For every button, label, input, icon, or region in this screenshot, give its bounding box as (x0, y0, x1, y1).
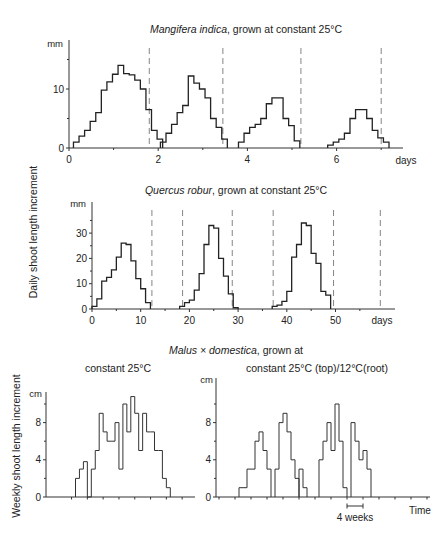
step-series-segment (92, 243, 150, 309)
step-series-segment (319, 404, 347, 497)
malus-group-title: Malus × domestica, grown at (169, 344, 303, 356)
quercus-chart: Quercus robur, grown at constant 25°C mm… (70, 184, 395, 326)
scale-bar-label: 4 weeks (337, 512, 374, 523)
malus-split-x-label: Time (409, 505, 431, 516)
malus-constant-axes: 048 (35, 392, 195, 503)
svg-text:20: 20 (184, 315, 196, 326)
mangifera-y-unit: mm (47, 38, 63, 49)
malus-split-axes: 048 (205, 378, 430, 503)
scale-bar: 4 weeks (337, 504, 374, 524)
svg-text:0: 0 (205, 492, 211, 503)
svg-text:8: 8 (205, 417, 211, 428)
svg-text:40: 40 (281, 315, 293, 326)
step-series-segment (239, 432, 271, 497)
step-series-segment (238, 98, 299, 148)
figure-canvas: Daily shoot length increment Mangifera i… (0, 0, 445, 540)
svg-text:10: 10 (53, 84, 65, 95)
step-series-segment (76, 397, 171, 497)
weekly-ylabel: Weekly shoot length increment (10, 374, 22, 517)
svg-text:20: 20 (76, 253, 88, 264)
quercus-y-unit: mm (70, 198, 86, 209)
mangifera-x-label: days (395, 155, 416, 166)
step-series-segment (73, 65, 162, 148)
svg-text:30: 30 (233, 315, 245, 326)
svg-text:0: 0 (35, 492, 41, 503)
svg-text:4: 4 (205, 454, 211, 465)
step-series-segment (160, 76, 227, 148)
malus-constant-y-unit: cm (29, 388, 42, 399)
malus-split-chart: constant 25°C (top)/12°C(root) cm Time 0… (200, 362, 431, 523)
step-series-segment (272, 223, 330, 309)
step-series-segment (328, 110, 389, 148)
svg-text:0: 0 (81, 304, 87, 315)
malus-constant-chart: constant 25°C cm 048 (29, 362, 195, 503)
malus-constant-series (76, 397, 171, 497)
svg-text:0: 0 (58, 143, 64, 154)
mangifera-title: Mangifera indica, grown at constant 25°C (150, 23, 343, 35)
svg-text:50: 50 (330, 315, 342, 326)
daily-ylabel: Daily shoot length increment (27, 166, 39, 299)
svg-text:30: 30 (76, 228, 88, 239)
svg-text:0: 0 (66, 154, 72, 165)
svg-text:2: 2 (155, 154, 161, 165)
step-series-segment (180, 226, 238, 309)
malus-split-title: constant 25°C (top)/12°C(root) (246, 362, 388, 374)
step-series-segment (351, 423, 371, 497)
malus-split-y-unit: cm (200, 374, 213, 385)
quercus-series (92, 223, 331, 309)
svg-text:6: 6 (334, 154, 340, 165)
svg-text:4: 4 (35, 454, 41, 465)
malus-constant-title: constant 25°C (85, 362, 151, 374)
mangifera-chart: Mangifera indica, grown at constant 25°C… (47, 23, 416, 166)
svg-text:0: 0 (89, 315, 95, 326)
svg-text:10: 10 (76, 278, 88, 289)
step-series-segment (275, 413, 299, 497)
mangifera-series (73, 65, 389, 148)
quercus-dashed-lines (152, 210, 380, 309)
quercus-title: Quercus robur, grown at constant 25°C (145, 184, 328, 196)
svg-text:10: 10 (135, 315, 147, 326)
malus-split-series (239, 404, 371, 497)
svg-text:4: 4 (245, 154, 251, 165)
svg-text:8: 8 (35, 417, 41, 428)
step-series-segment (299, 469, 307, 497)
quercus-x-label: days (371, 315, 392, 326)
